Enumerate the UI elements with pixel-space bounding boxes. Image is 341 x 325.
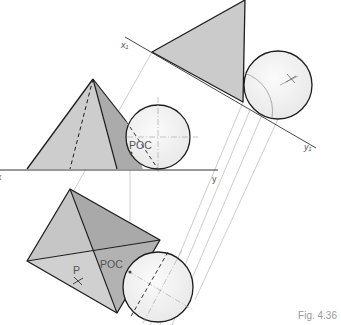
projection-drawing: POC P POC x₁ y₁ x y: [0, 0, 341, 325]
front-pyramid: [27, 79, 143, 169]
plan-sphere: [123, 250, 193, 325]
aux-pyramid-view: [152, 0, 245, 102]
poc-plan-label: POC: [100, 258, 123, 270]
y-label: y: [212, 174, 217, 184]
figure-caption: Fig. 4.36: [298, 310, 337, 321]
x-label: x: [0, 172, 2, 182]
x1-label: x₁: [120, 40, 129, 50]
aux-sphere: [244, 51, 312, 119]
point-p-label: P: [73, 264, 80, 276]
y1-label: y₁: [303, 142, 312, 152]
poc-front-label: POC: [129, 139, 152, 151]
